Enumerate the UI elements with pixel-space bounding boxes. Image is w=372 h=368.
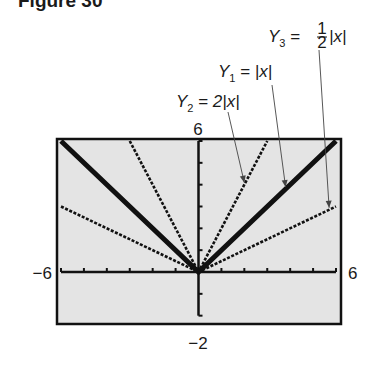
svg-text:2: 2 [317, 33, 326, 52]
svg-text:|x|: |x| [329, 27, 346, 46]
calculator-graph: 6 −2 −6 6 Y3 = 1 2 |x| Y1 = |x| Y2 = 2|x… [0, 0, 372, 368]
svg-text:Y2 = 2|x|: Y2 = 2|x| [176, 92, 240, 114]
ymax-label: 6 [193, 120, 202, 139]
label-y2: Y2 = 2|x| [176, 92, 240, 114]
ymin-label: −2 [188, 334, 207, 353]
xmin-label: −6 [33, 264, 52, 283]
label-y1: Y1 = |x| [218, 62, 272, 84]
label-y3: Y3 = 1 2 |x| [268, 19, 346, 52]
svg-text:Y1 = |x|: Y1 = |x| [218, 62, 272, 84]
xmax-label: 6 [348, 264, 357, 283]
svg-text:Y3 =: Y3 = [268, 27, 300, 49]
